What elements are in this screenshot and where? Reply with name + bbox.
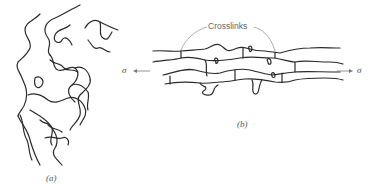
crosslink-pointer-left [181,27,207,50]
stress-label-right: σ [357,65,361,75]
panel-a-label: (a) [46,173,57,183]
stress-label-left: σ [122,65,126,75]
stress-arrow-left [133,69,150,73]
panel-a-chains [17,5,118,165]
crosslinks-label: Crosslinks [208,21,247,31]
polymer-diagram [0,0,373,193]
panel-b-label: (b) [237,119,248,129]
crosslink-pointer-right [254,27,275,51]
panel-b-chains [153,44,343,95]
